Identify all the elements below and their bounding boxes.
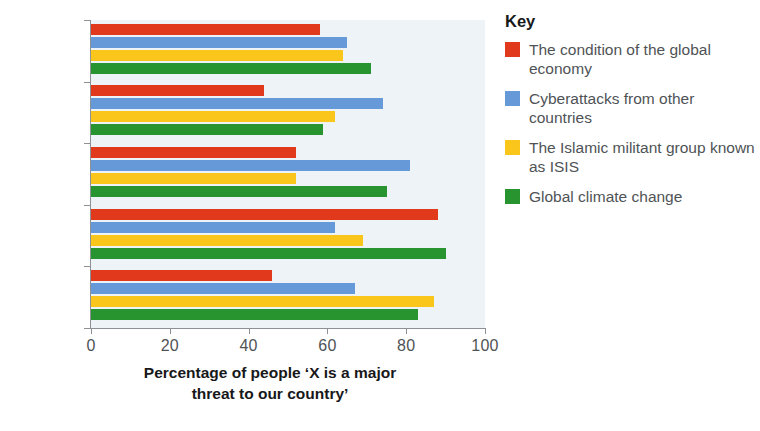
bar	[91, 222, 335, 233]
legend-item-label: Cyberattacks from other countries	[529, 89, 755, 127]
bar	[91, 24, 320, 35]
legend-item-label: The Islamic militant group known as ISIS	[529, 138, 755, 176]
bar	[91, 98, 383, 109]
legend-swatch-icon	[505, 140, 520, 155]
bar	[91, 309, 418, 320]
legend-swatch-icon	[505, 91, 520, 106]
bar	[91, 160, 410, 171]
x-tick-label: 20	[161, 337, 179, 355]
bar	[91, 296, 434, 307]
x-tick	[170, 328, 171, 334]
y-tick	[84, 266, 91, 267]
x-tick-label: 0	[86, 337, 95, 355]
legend: Key The condition of the global economyC…	[505, 12, 755, 217]
legend-item: Cyberattacks from other countries	[505, 89, 755, 127]
bar	[91, 147, 296, 158]
y-tick	[84, 205, 91, 206]
x-axis-title-line-2: threat to our country’	[60, 383, 480, 404]
bar	[91, 283, 355, 294]
bar	[91, 63, 371, 74]
x-tick	[485, 328, 486, 334]
plot-area: 020406080100 KenyaUSAJapanGreeceFrance P…	[0, 0, 500, 431]
legend-items: The condition of the global economyCyber…	[505, 40, 755, 206]
legend-item: Global climate change	[505, 187, 755, 206]
bar	[91, 37, 347, 48]
chart-figure: 020406080100 KenyaUSAJapanGreeceFrance P…	[0, 0, 760, 431]
x-tick	[406, 328, 407, 334]
x-axis-title-line-1: Percentage of people ‘X is a major	[60, 362, 480, 383]
legend-item: The Islamic militant group known as ISIS	[505, 138, 755, 176]
bar	[91, 270, 272, 281]
x-tick-label: 40	[239, 337, 257, 355]
legend-swatch-icon	[505, 189, 520, 204]
x-tick	[327, 328, 328, 334]
bar	[91, 124, 323, 135]
y-tick	[84, 143, 91, 144]
y-axis-line	[90, 20, 91, 328]
x-tick-label: 100	[471, 337, 498, 355]
legend-item-label: The condition of the global economy	[529, 40, 755, 78]
legend-item-label: Global climate change	[529, 187, 682, 206]
x-axis-title: Percentage of people ‘X is a major threa…	[60, 362, 480, 404]
bar	[91, 111, 335, 122]
x-tick-label: 60	[318, 337, 336, 355]
bar	[91, 248, 446, 259]
x-tick-label: 80	[397, 337, 415, 355]
x-tick	[249, 328, 250, 334]
legend-title: Key	[505, 12, 755, 31]
bar	[91, 50, 343, 61]
x-axis-line	[91, 328, 485, 329]
legend-item: The condition of the global economy	[505, 40, 755, 78]
y-tick	[84, 328, 91, 329]
bar	[91, 173, 296, 184]
bar	[91, 85, 264, 96]
bar	[91, 186, 387, 197]
y-tick	[84, 20, 91, 21]
bar	[91, 235, 363, 246]
bar	[91, 209, 438, 220]
x-tick	[91, 328, 92, 334]
legend-swatch-icon	[505, 42, 520, 57]
y-tick	[84, 82, 91, 83]
